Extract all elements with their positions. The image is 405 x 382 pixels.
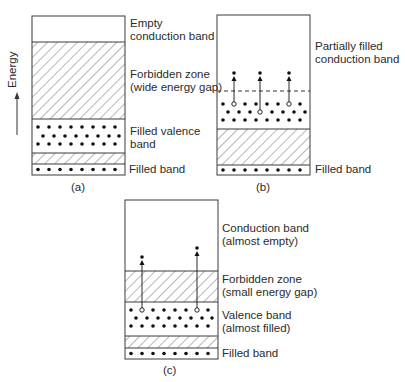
forbidden-zone-c [125, 271, 218, 302]
label-line: Valence band [222, 309, 291, 322]
caption-a: (a) [71, 181, 85, 193]
label-c-valence: Valence band (almost filled) [222, 309, 291, 335]
filled-band-electrons-a [36, 168, 117, 172]
valence-electrons-a [36, 125, 121, 146]
label-line: Forbidden zone [130, 68, 222, 81]
label-b-conduction: Partially filled conduction band [315, 40, 399, 66]
label-line: band [130, 138, 200, 151]
lower-gap-c [125, 336, 218, 348]
label-line: conduction band [130, 30, 214, 43]
label-c-forbidden: Forbidden zone (small energy gap) [222, 273, 317, 299]
label-line: Empty [130, 17, 214, 30]
panel-b [217, 15, 310, 175]
label-line: (small energy gap) [222, 286, 317, 299]
label-c-conduction: Conduction band (almost empty) [222, 222, 309, 248]
label-a-filled: Filled band [129, 163, 185, 176]
label-line: Partially filled [315, 40, 399, 53]
label-b-filled: Filled band [315, 163, 371, 176]
label-line: (almost filled) [222, 322, 291, 335]
label-line: (almost empty) [222, 235, 309, 248]
label-a-forbidden: Forbidden zone (wide energy gap) [130, 68, 222, 94]
label-line: (wide energy gap) [130, 81, 222, 94]
lower-gap-a [32, 153, 125, 164]
excitation-arrows-b [234, 80, 289, 110]
caption-b: (b) [256, 181, 270, 193]
label-line: Conduction band [222, 222, 309, 235]
holes-c [140, 308, 199, 312]
label-line: conduction band [315, 53, 399, 66]
arrowheads-b [232, 71, 292, 81]
gap-b [217, 129, 310, 165]
label-a-conduction: Empty conduction band [130, 17, 214, 43]
label-c-filled: Filled band [222, 347, 278, 360]
label-line: Forbidden zone [222, 273, 317, 286]
label-a-valence: Filled valence band [130, 125, 200, 151]
energy-axis-label: Energy [6, 52, 18, 88]
forbidden-zone-a [32, 42, 125, 119]
panel-c [125, 200, 218, 359]
arrowheads-c [140, 246, 200, 265]
caption-c: (c) [163, 364, 176, 376]
label-line: Filled valence [130, 125, 200, 138]
filled-band-electrons-c [129, 352, 210, 356]
filled-band-electrons-b [221, 168, 302, 172]
panel-a [32, 16, 125, 175]
energy-arrow-icon [15, 92, 20, 135]
